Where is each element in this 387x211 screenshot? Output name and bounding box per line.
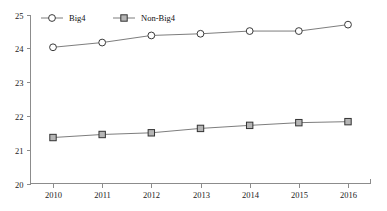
- x-tick-label: 2015: [291, 190, 308, 200]
- data-point-big4-2014: [246, 28, 253, 35]
- x-tick-label: 2012: [143, 190, 160, 200]
- data-point-big4-2016: [345, 21, 352, 28]
- y-tick-label: 24: [15, 44, 24, 54]
- x-tick-label: 2014: [242, 190, 260, 200]
- data-point-big4-2015: [295, 28, 302, 35]
- data-point-non-big4-2016: [345, 118, 351, 124]
- data-point-non-big4-2014: [246, 122, 252, 128]
- x-tick-label: 2013: [193, 190, 210, 200]
- legend-marker-non-big4: [121, 15, 127, 21]
- data-point-big4-2010: [50, 44, 57, 51]
- y-tick-label: 20: [15, 180, 24, 190]
- x-tick-label: 2010: [45, 190, 62, 200]
- data-point-non-big4-2015: [296, 119, 302, 125]
- data-point-non-big4-2010: [50, 134, 56, 140]
- y-tick-label: 23: [15, 78, 24, 88]
- data-point-big4-2011: [99, 39, 106, 46]
- line-chart: 202122232425 201020112012201320142015201…: [0, 0, 387, 211]
- legend-marker-big4: [49, 15, 56, 22]
- y-tick-label: 22: [15, 112, 24, 122]
- data-point-big4-2012: [148, 32, 155, 39]
- y-tick-label: 25: [15, 11, 24, 21]
- x-tick-label: 2016: [340, 190, 357, 200]
- legend-label-big4: Big4: [69, 13, 86, 23]
- data-point-non-big4-2013: [197, 125, 203, 131]
- data-point-big4-2013: [197, 30, 204, 37]
- data-point-non-big4-2011: [99, 131, 105, 137]
- data-point-non-big4-2012: [148, 130, 154, 136]
- legend-label-non-big4: Non-Big4: [141, 13, 176, 23]
- x-tick-label: 2011: [94, 190, 111, 200]
- chart-canvas: 202122232425 201020112012201320142015201…: [0, 0, 387, 211]
- chart-background: [0, 0, 387, 211]
- y-tick-label: 21: [15, 146, 24, 156]
